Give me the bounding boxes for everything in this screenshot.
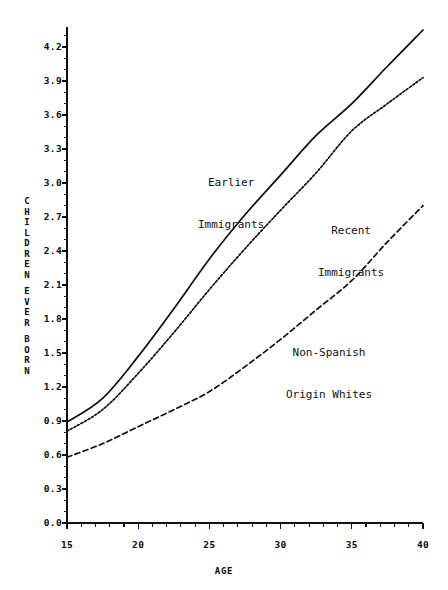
y-axis-title-letter: V bbox=[20, 297, 34, 308]
y-axis-title-letter: C bbox=[20, 196, 34, 207]
y-axis-tick-label: 3.6 bbox=[18, 110, 62, 120]
x-axis-tick-label: 25 bbox=[194, 540, 224, 550]
y-axis-tick-label: 0.0 bbox=[18, 518, 62, 528]
y-axis-tick-label: 0.9 bbox=[18, 416, 62, 426]
x-axis-tick-label: 35 bbox=[337, 540, 367, 550]
series-label-earlier-immigrants: Earlier Immigrants bbox=[198, 148, 264, 260]
y-axis-title-letter: N bbox=[20, 270, 34, 281]
y-axis-title-letter: R bbox=[20, 355, 34, 366]
y-axis-tick-label: 1.2 bbox=[18, 382, 62, 392]
series-label-recent-immigrants-line1: Recent bbox=[318, 224, 384, 238]
x-axis-tick-label: 40 bbox=[408, 540, 438, 550]
y-axis-title-letter: D bbox=[20, 238, 34, 249]
y-axis-title-letter: O bbox=[20, 345, 34, 356]
y-axis-title-letter: E bbox=[20, 259, 34, 270]
series-label-recent-immigrants-line2: Immigrants bbox=[318, 266, 384, 280]
y-axis-ticks bbox=[62, 36, 67, 523]
x-axis-tick-label: 30 bbox=[266, 540, 296, 550]
series-label-recent-immigrants: Recent Immigrants bbox=[318, 196, 384, 308]
y-axis-tick-label: 3.0 bbox=[18, 178, 62, 188]
series-label-non-spanish-origin-whites-line2: Origin Whites bbox=[286, 388, 372, 402]
series-label-earlier-immigrants-line2: Immigrants bbox=[198, 218, 264, 232]
x-axis-ticks bbox=[67, 523, 423, 529]
y-axis-title-letter: H bbox=[20, 207, 34, 218]
y-axis-tick-label: 3.9 bbox=[18, 76, 62, 86]
y-axis-title-letter: L bbox=[20, 228, 34, 239]
y-axis-tick-label: 0.6 bbox=[18, 450, 62, 460]
y-axis-tick-label: 0.3 bbox=[18, 484, 62, 494]
y-axis-tick-label: 3.3 bbox=[18, 144, 62, 154]
series-label-non-spanish-origin-whites: Non-Spanish Origin Whites bbox=[286, 318, 372, 430]
y-axis-title: CHILDRENEVERBORN bbox=[20, 196, 34, 376]
y-axis-title-letter: I bbox=[20, 217, 34, 228]
series-label-earlier-immigrants-line1: Earlier bbox=[198, 176, 264, 190]
y-axis-title-letter: R bbox=[20, 318, 34, 329]
y-axis-tick-label: 4.2 bbox=[18, 42, 62, 52]
chart-figure: 0.00.30.60.91.21.51.82.12.42.73.03.33.63… bbox=[0, 0, 448, 590]
y-axis-title-letter: N bbox=[20, 366, 34, 377]
y-axis-title-letter: R bbox=[20, 249, 34, 260]
y-axis-title-letter: B bbox=[20, 334, 34, 345]
x-axis-tick-label: 20 bbox=[123, 540, 153, 550]
x-axis-tick-label: 15 bbox=[52, 540, 82, 550]
y-axis-title-letter: E bbox=[20, 307, 34, 318]
series-label-non-spanish-origin-whites-line1: Non-Spanish bbox=[286, 346, 372, 360]
y-axis-title-letter: E bbox=[20, 286, 34, 297]
x-axis-title: AGE bbox=[0, 566, 448, 576]
